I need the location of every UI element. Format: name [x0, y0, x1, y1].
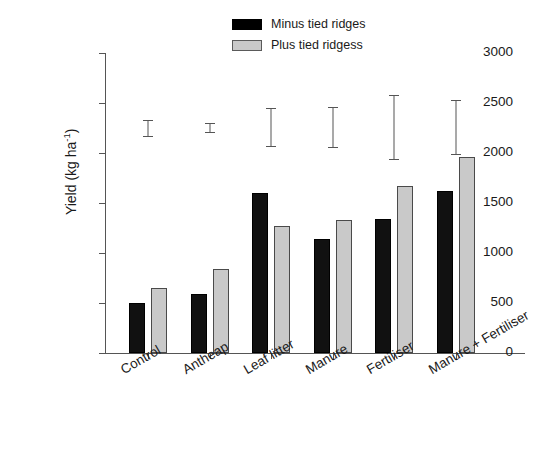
error-bar-cap-top: [389, 95, 399, 96]
y-axis-title-base: Yield (kg ha: [63, 142, 79, 215]
bar: [274, 226, 290, 353]
legend-label-minus-tied-ridges: Minus tied ridges: [271, 18, 366, 30]
legend-item-minus-tied-ridges: Minus tied ridges: [232, 18, 366, 30]
y-axis-title: Yield (kg ha-1): [61, 129, 79, 216]
error-bar-cap-bottom: [451, 154, 461, 155]
y-axis-tick-label: 2500: [483, 94, 513, 109]
y-axis-tick-label: 2000: [483, 144, 513, 159]
y-axis-tick-label: 3000: [483, 44, 513, 59]
error-bar: [266, 108, 276, 147]
error-bar: [143, 120, 153, 137]
bar: [459, 157, 475, 353]
error-bar-cap-bottom: [266, 146, 276, 147]
error-bar-cap-top: [451, 100, 461, 101]
y-axis-tick: [99, 153, 105, 154]
error-bar: [328, 107, 338, 148]
y-axis-tick-label: 1000: [483, 244, 513, 259]
legend-item-plus-tied-ridges: Plus tied ridgess: [232, 39, 366, 51]
legend-swatch-gray: [232, 40, 262, 51]
chart-legend: Minus tied ridges Plus tied ridgess: [232, 18, 366, 51]
bar: [375, 219, 391, 353]
error-bar-cap-top: [143, 120, 153, 121]
error-bar-stem: [455, 100, 456, 155]
legend-swatch-black: [232, 19, 262, 30]
y-axis-title-close: ): [63, 129, 79, 134]
error-bar-stem: [148, 120, 149, 137]
error-bar: [205, 123, 215, 133]
bar: [314, 239, 330, 353]
y-axis-title-exponent: -1: [61, 133, 72, 141]
bar: [191, 294, 207, 353]
chart-figure: Minus tied ridges Plus tied ridgess Yiel…: [0, 0, 543, 451]
y-axis-tick: [99, 353, 105, 354]
error-bar: [389, 95, 399, 160]
error-bar-cap-bottom: [143, 136, 153, 137]
error-bar-stem: [394, 95, 395, 160]
error-bar-cap-bottom: [389, 159, 399, 160]
bar: [336, 220, 352, 353]
y-axis-line: [105, 53, 106, 354]
bar: [437, 191, 453, 353]
plot-area: Yield (kg ha-1) 050010001500200025003000: [105, 53, 525, 353]
legend-label-plus-tied-ridges: Plus tied ridgess: [271, 39, 363, 51]
error-bar-cap-bottom: [328, 147, 338, 148]
bar: [252, 193, 268, 353]
error-bar-cap-top: [205, 123, 215, 124]
y-axis-tick: [99, 203, 105, 204]
error-bar-cap-bottom: [205, 132, 215, 133]
bar: [397, 186, 413, 353]
y-axis-tick: [99, 103, 105, 104]
error-bar: [451, 100, 461, 155]
y-axis-tick: [99, 253, 105, 254]
error-bar-stem: [332, 107, 333, 148]
error-bar-cap-top: [328, 107, 338, 108]
y-axis-tick: [99, 303, 105, 304]
bar: [129, 303, 145, 353]
y-axis-tick-label: 500: [490, 294, 513, 309]
y-axis-tick-label: 1500: [483, 194, 513, 209]
y-axis-tick-label: 0: [505, 344, 513, 359]
error-bar-stem: [271, 108, 272, 147]
y-axis-tick: [99, 53, 105, 54]
error-bar-cap-top: [266, 108, 276, 109]
